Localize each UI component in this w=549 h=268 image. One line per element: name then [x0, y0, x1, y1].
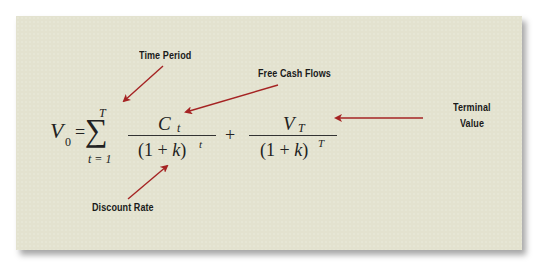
free-cash-flows-arrow	[186, 85, 278, 112]
discount-rate-arrow	[128, 166, 167, 199]
time-period-arrow	[124, 66, 163, 101]
annotation-arrows	[0, 0, 549, 268]
